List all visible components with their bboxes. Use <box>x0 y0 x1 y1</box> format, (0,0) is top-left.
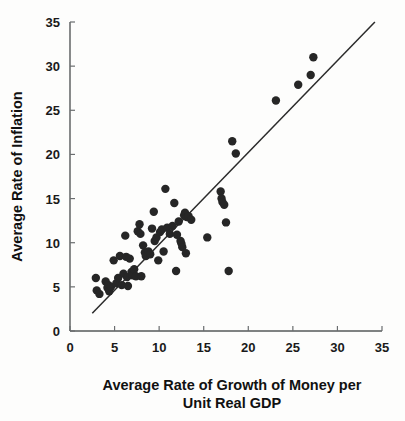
data-point <box>135 220 143 228</box>
data-point <box>228 137 236 145</box>
x-tick-label: 35 <box>375 340 389 355</box>
data-point <box>146 250 154 258</box>
data-point <box>95 290 103 298</box>
x-axis-title-line1: Average Rate of Growth of Money per <box>103 377 362 393</box>
x-tick-label: 10 <box>152 340 166 355</box>
data-point <box>220 201 228 209</box>
data-point <box>126 254 134 262</box>
data-point <box>137 272 145 280</box>
x-tick-label: 5 <box>111 340 118 355</box>
data-point <box>166 230 174 238</box>
data-point <box>172 267 180 275</box>
y-tick-label: 20 <box>46 147 60 162</box>
y-tick-label: 30 <box>46 59 60 74</box>
data-point <box>159 247 167 255</box>
data-point <box>216 187 224 195</box>
data-point <box>130 265 138 273</box>
y-tick-label: 35 <box>46 15 60 30</box>
scatter-plot-figure: 0510152025303505101520253035 Average Rat… <box>0 0 405 421</box>
x-tick-label: 20 <box>241 340 255 355</box>
data-point <box>182 249 190 257</box>
y-tick-label: 0 <box>53 324 60 339</box>
x-tick-label: 25 <box>286 340 300 355</box>
data-point <box>150 208 158 216</box>
x-tick-label: 15 <box>196 340 210 355</box>
data-point <box>272 96 280 104</box>
data-point <box>154 256 162 264</box>
y-tick-label: 5 <box>53 280 60 295</box>
x-axis-title-line2: Unit Real GDP <box>183 395 282 411</box>
y-tick-label: 15 <box>46 192 60 207</box>
data-point <box>224 267 232 275</box>
data-point <box>306 71 314 79</box>
data-point <box>203 233 211 241</box>
data-point <box>294 80 302 88</box>
data-point <box>121 231 129 239</box>
data-point <box>92 274 100 282</box>
y-tick-label: 25 <box>46 103 60 118</box>
data-point <box>148 224 156 232</box>
data-point <box>136 230 144 238</box>
data-point <box>222 218 230 226</box>
y-tick-label: 10 <box>46 236 60 251</box>
data-points-group <box>92 53 318 298</box>
data-point <box>309 53 317 61</box>
data-point <box>161 185 169 193</box>
y-axis-title: Average Rate of Inflation <box>9 91 25 261</box>
x-tick-label: 30 <box>330 340 344 355</box>
data-point <box>124 282 132 290</box>
data-point <box>232 149 240 157</box>
x-tick-label: 0 <box>66 340 73 355</box>
chart-canvas: 0510152025303505101520253035 Average Rat… <box>0 0 405 421</box>
data-point <box>170 199 178 207</box>
data-point <box>187 216 195 224</box>
